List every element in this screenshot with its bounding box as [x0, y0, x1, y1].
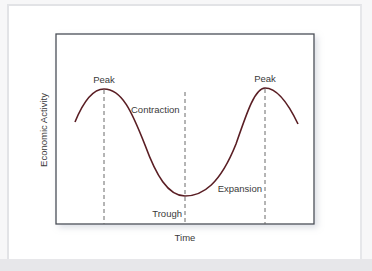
y-axis-label: Economic Activity [38, 93, 49, 167]
x-axis-label: Time [175, 232, 196, 243]
contraction-label: Contraction [131, 104, 180, 115]
business-cycle-diagram: Peak Peak Contraction Trough Expansion T… [0, 0, 372, 271]
peak-right-label: Peak [254, 73, 276, 84]
trough-label: Trough [152, 208, 182, 219]
peak-left-label: Peak [93, 74, 115, 85]
expansion-label: Expansion [218, 183, 262, 194]
